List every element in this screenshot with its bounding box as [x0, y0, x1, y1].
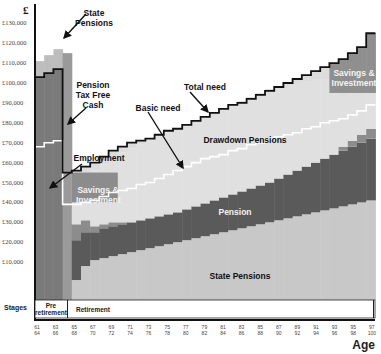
bar-state-pensions	[99, 258, 109, 300]
bar-state-pensions	[127, 252, 137, 300]
y-tick-label: £120,000	[2, 39, 32, 46]
bar-pension	[99, 228, 109, 258]
bar-pension	[357, 143, 367, 203]
bar-pension	[182, 209, 192, 240]
x-tick-label: 8992	[291, 323, 303, 336]
bar-drawdown-pensions	[201, 117, 211, 204]
bar-pension	[256, 185, 266, 224]
y-tick-label: £40,000	[2, 198, 32, 205]
bar-state-pensions	[145, 248, 155, 300]
bar-pension	[210, 200, 220, 234]
x-tick-label: 7578	[161, 323, 173, 336]
bar-state-pensions	[274, 220, 284, 300]
bar-state-pensions	[256, 224, 266, 300]
y-tick-label: £90,000	[2, 99, 32, 106]
x-tick-label: 8184	[217, 323, 229, 336]
annotation-savings-investment-right: Savings & Investment	[330, 68, 378, 88]
y-tick-label: £100,000	[2, 79, 32, 86]
bar-drawdown-pensions	[191, 121, 201, 207]
bar-pension	[348, 147, 358, 205]
bar-drawdown-pensions	[136, 145, 146, 221]
y-tick-label: £10,000	[2, 258, 32, 265]
bar-pension	[293, 171, 303, 217]
bar-pension	[164, 214, 174, 244]
stages-label: Stages	[4, 304, 27, 311]
bar-savings-investment	[339, 147, 349, 151]
bar-savings-investment	[72, 224, 82, 240]
x-tick-label: 8588	[254, 323, 266, 336]
bar-state-pensions	[90, 260, 100, 300]
bar-state-pensions	[293, 216, 303, 300]
bar-pension	[311, 163, 321, 213]
bar-state-pensions	[302, 214, 312, 300]
x-tick-label: 9396	[329, 323, 341, 336]
y-tick-label: £70,000	[2, 139, 32, 146]
bar-state-pensions	[237, 228, 247, 300]
bar-state-pensions	[348, 204, 358, 300]
annotation-state-pensions-bottom: State Pensions	[200, 271, 280, 281]
bar-state-pensions	[210, 234, 220, 300]
bar-state-pensions	[118, 254, 128, 300]
bar-drawdown-pensions	[339, 95, 349, 147]
x-tick-label: 9194	[310, 323, 322, 336]
annotation-total-need: Total need	[180, 82, 230, 92]
stage-retirement-label: Retirement	[76, 306, 110, 313]
annotation-savings-investment-left: Savings & Investment	[76, 185, 120, 205]
bar-drawdown-pensions	[274, 87, 284, 179]
bar-savings-investment	[357, 135, 367, 143]
annotation-basic-need: Basic need	[133, 103, 183, 113]
x-tick-label: 6568	[68, 323, 80, 336]
bar-pension	[274, 179, 284, 221]
bar-state-pensions	[164, 244, 174, 300]
x-tick-label: 8386	[236, 323, 248, 336]
bar-pension	[145, 218, 155, 248]
bar-state-pensions	[136, 250, 146, 300]
stage-pre-retirement: Pre retirement	[35, 300, 68, 318]
bar-savings-investment	[118, 222, 128, 224]
bar-pension	[329, 155, 339, 209]
bar-pension	[191, 206, 201, 238]
bar-pension	[109, 226, 119, 256]
bar-state-pensions	[219, 232, 229, 300]
bar-drawdown-pensions	[155, 137, 165, 217]
bar-pension	[72, 240, 82, 280]
bar-state-pensions	[283, 218, 293, 300]
bar-state-pensions	[329, 208, 339, 300]
y-tick-label: £80,000	[2, 119, 32, 126]
bar-state-pensions	[109, 256, 119, 300]
bar-state-pensions	[201, 236, 211, 300]
x-tick-label: 7376	[143, 323, 155, 336]
bar-savings-investment	[99, 224, 109, 228]
bar-drawdown-fill	[90, 163, 100, 171]
annotation-state-pensions-top: State Pensions	[72, 8, 116, 28]
x-axis-title: Age	[352, 338, 375, 352]
bar-pension	[90, 232, 100, 260]
bar-drawdown-fill	[320, 67, 330, 79]
x-tick-label: 7174	[124, 323, 136, 336]
bar-drawdown-pensions	[302, 81, 312, 167]
bar-pension	[265, 183, 275, 223]
bar-drawdown-pensions	[237, 101, 247, 192]
bar-drawdown-pensions	[348, 87, 358, 141]
stage-retirement: Retirement	[68, 300, 374, 318]
bar-state-pension-pre	[35, 61, 45, 77]
bar-pension	[81, 232, 91, 266]
bar-drawdown-pensions	[228, 105, 238, 195]
y-tick-label: £30,000	[2, 218, 32, 225]
bar-drawdown-pensions	[311, 79, 321, 163]
bar-savings-investment	[81, 220, 91, 232]
y-tick-label: £20,000	[2, 238, 32, 245]
x-tick-label: 6366	[50, 323, 62, 336]
bar-pension	[155, 216, 165, 246]
bar-state-pensions	[81, 266, 91, 300]
bar-pension	[136, 220, 146, 250]
x-tick-label: 9598	[347, 323, 359, 336]
x-tick-label: 8790	[273, 323, 285, 336]
bar-drawdown-fill	[311, 71, 321, 79]
annotation-pension: Pension	[210, 207, 260, 217]
x-tick-label: 7982	[198, 323, 210, 336]
bar-state-pensions	[191, 238, 201, 300]
bar-pension	[366, 139, 376, 201]
bar-state-pensions	[173, 242, 183, 300]
bar-state-pensions	[311, 212, 321, 300]
